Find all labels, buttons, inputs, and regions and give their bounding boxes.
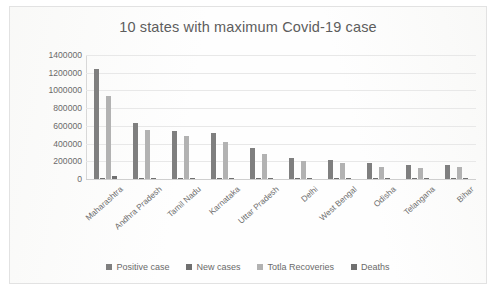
bar [445, 165, 450, 179]
bar [139, 178, 144, 179]
bar [184, 136, 189, 179]
bar [346, 178, 351, 179]
bar [289, 158, 294, 179]
bar-group [242, 55, 281, 179]
bar [106, 96, 111, 179]
x-axis-tick-label: Uttar Pradesh [235, 184, 280, 226]
legend-label: Totla Recoveries [267, 262, 334, 272]
x-axis-tick-label: Karnataka [206, 184, 241, 217]
bar-group [320, 55, 359, 179]
legend-swatch-icon [257, 264, 263, 270]
bar [211, 133, 216, 179]
bar [379, 167, 384, 179]
bar [145, 130, 150, 179]
bar [412, 178, 417, 179]
bar [262, 154, 267, 179]
bar [217, 178, 222, 179]
x-axis-tick-label: Bihar [454, 184, 475, 204]
bar-group [437, 55, 476, 179]
legend-swatch-icon [186, 264, 192, 270]
bar [100, 178, 105, 179]
bar [256, 178, 261, 179]
x-axis-tick-label: Delhi [298, 184, 319, 204]
x-axis-tick-label: Tamil Nadu [165, 184, 203, 219]
y-axis-tick-label: 200000 [14, 156, 82, 166]
chart-container: 10 states with maximum Covid-19 case 020… [9, 6, 487, 284]
y-axis-tick-label: 800000 [14, 103, 82, 113]
bar [385, 178, 390, 179]
bar [133, 123, 138, 179]
bar [406, 165, 411, 179]
bar [457, 167, 462, 179]
y-axis-tick-label: 400000 [14, 139, 82, 149]
y-axis-tick-label: 1000000 [14, 85, 82, 95]
bar [229, 178, 234, 179]
bar [268, 178, 273, 179]
chart-legend: Positive caseNew casesTotla RecoveriesDe… [10, 262, 486, 272]
bar [307, 178, 312, 179]
bar [94, 69, 99, 179]
legend-item[interactable]: Totla Recoveries [257, 262, 334, 272]
x-axis-labels: MaharashtraAndhra PradeshTamil NaduKarna… [86, 180, 476, 238]
y-axis-tick-label: 1200000 [14, 68, 82, 78]
legend-item[interactable]: Deaths [351, 262, 390, 272]
bar-group [359, 55, 398, 179]
y-axis-labels: 0200000400000600000800000100000012000001… [10, 55, 82, 179]
bar [334, 178, 339, 179]
bar [295, 178, 300, 179]
x-axis-tick-label: Maharashtra [83, 184, 124, 223]
bar-group [203, 55, 242, 179]
bar [328, 160, 333, 179]
legend-item[interactable]: New cases [186, 262, 240, 272]
y-axis-tick-label: 0 [14, 174, 82, 184]
bar-group [281, 55, 320, 179]
bar-group [398, 55, 437, 179]
plot-area [86, 55, 476, 179]
bar-group [164, 55, 203, 179]
bar [172, 131, 177, 179]
x-axis-tick-label: Odisha [371, 184, 397, 209]
bar [418, 168, 423, 180]
bar [223, 142, 228, 179]
legend-item[interactable]: Positive case [106, 262, 169, 272]
legend-label: Positive case [116, 262, 169, 272]
bar-group [86, 55, 125, 179]
bar [367, 163, 372, 179]
legend-label: Deaths [361, 262, 390, 272]
bar [373, 178, 378, 179]
x-axis-tick-label: West Bengal [317, 184, 359, 223]
bar [250, 148, 255, 179]
bar [190, 178, 195, 179]
bar [112, 176, 117, 179]
chart-title: 10 states with maximum Covid-19 case [10, 19, 486, 35]
y-axis-tick-label: 600000 [14, 121, 82, 131]
x-axis-tick-label: Telangana [401, 184, 436, 217]
bar [451, 178, 456, 179]
legend-swatch-icon [351, 264, 357, 270]
bar [151, 178, 156, 179]
bar [301, 161, 306, 179]
y-axis-tick-label: 1400000 [14, 50, 82, 60]
bar [178, 178, 183, 179]
legend-swatch-icon [106, 264, 112, 270]
bar-group [125, 55, 164, 179]
bar [340, 163, 345, 179]
legend-label: New cases [196, 262, 240, 272]
bar [424, 178, 429, 179]
bar [463, 178, 468, 179]
